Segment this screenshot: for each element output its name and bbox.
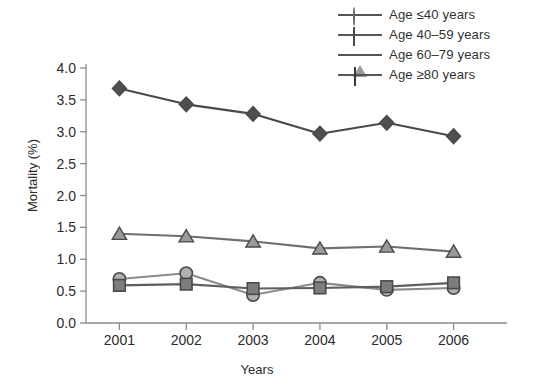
x-tick-label: 2004 <box>285 332 355 348</box>
y-tick-label: 2.0 <box>30 188 76 204</box>
y-tick-label: 3.0 <box>30 124 76 140</box>
x-tick-label: 2001 <box>84 332 154 348</box>
y-tick-label: 3.5 <box>30 92 76 108</box>
y-tick-label: 0.0 <box>30 315 76 331</box>
x-tick-label: 2003 <box>218 332 288 348</box>
mortality-by-age-line-chart: Age ≤40 years Age 40–59 years Age 60–79 … <box>0 0 533 391</box>
y-tick-label: 1.0 <box>30 251 76 267</box>
x-tick-label: 2002 <box>151 332 221 348</box>
plot-area: Mortality (%) Years 0.00.51.01.52.02.53.… <box>0 0 533 391</box>
x-tick-label: 2005 <box>352 332 422 348</box>
y-tick-label: 0.5 <box>30 283 76 299</box>
y-tick-label: 2.5 <box>30 156 76 172</box>
y-tick-label: 4.0 <box>30 60 76 76</box>
x-axis-title: Years <box>197 362 317 377</box>
x-tick-label: 2006 <box>419 332 489 348</box>
y-tick-label: 1.5 <box>30 219 76 235</box>
